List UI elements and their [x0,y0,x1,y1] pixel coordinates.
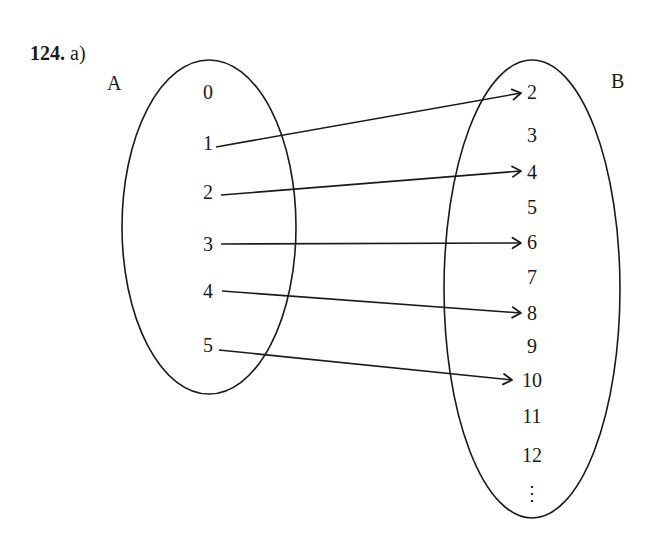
problem-part: a) [70,42,86,65]
arrow-shaft [222,291,521,313]
arrow-shaft [221,243,521,244]
set-b-element: 12 [522,444,542,466]
set-a-element: 3 [203,233,213,255]
set-b-element: 9 [527,335,537,357]
set-b-element: 10 [522,369,542,391]
set-b-element: 3 [527,124,537,146]
set-a-element: 4 [203,280,213,302]
mapping-arrow [221,238,521,248]
mapping-arrows [216,89,521,384]
set-a-element: 5 [203,334,213,356]
set-b-element: ⋮ [522,482,542,504]
set-a-element: 2 [203,181,213,203]
problem-number: 124. [30,42,65,64]
set-b-element: 4 [527,161,537,183]
set-b-element: 11 [522,405,541,427]
mapping-diagram: 124. a) A B 012345 23456789101112⋮ [0,0,666,546]
set-a-elements: 012345 [203,81,213,356]
arrow-shaft [216,93,521,147]
set-a-element: 1 [203,132,213,154]
set-a-element: 0 [203,81,213,103]
set-b-element: 8 [527,302,537,324]
set-b-element: 6 [527,231,537,253]
set-b-label: B [611,70,624,92]
set-b-element: 5 [527,196,537,218]
set-b-element: 7 [527,266,537,288]
arrow-shaft [219,350,512,380]
mapping-arrow [216,89,521,147]
problem-title: 124. a) [30,42,86,65]
mapping-arrow [221,166,521,195]
set-a-label: A [107,72,122,94]
set-b-elements: 23456789101112⋮ [522,81,542,504]
mapping-arrow [222,291,521,318]
set-b-element: 2 [527,81,537,103]
mapping-arrow [219,350,512,384]
arrow-shaft [221,171,521,195]
